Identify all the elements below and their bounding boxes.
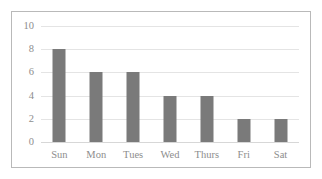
y-tick-label: 10 <box>24 21 35 32</box>
y-tick-label: 2 <box>29 114 34 125</box>
plot-area: 0246810 SunMonTuesWedThursFriSat <box>41 26 299 142</box>
x-tick-label: Sun <box>51 150 67 161</box>
x-tick-label: Tues <box>123 150 143 161</box>
gridline-0 <box>41 142 299 143</box>
bar <box>163 96 176 142</box>
bar <box>274 119 287 142</box>
y-tick-label: 0 <box>29 137 34 148</box>
y-tick-label: 4 <box>29 90 34 101</box>
x-tick-label: Fri <box>238 150 250 161</box>
bar-group: Wed <box>152 26 189 142</box>
x-tick-label: Mon <box>86 150 106 161</box>
y-tick-label: 8 <box>29 44 34 55</box>
bar <box>237 119 250 142</box>
bar-group: Sat <box>262 26 299 142</box>
x-tick-label: Wed <box>160 150 179 161</box>
bar <box>90 72 103 142</box>
bar-group: Tues <box>115 26 152 142</box>
x-tick-label: Thurs <box>195 150 220 161</box>
y-tick-label: 6 <box>29 67 34 78</box>
bar-group: Mon <box>78 26 115 142</box>
x-tick-label: Sat <box>274 150 287 161</box>
bars: SunMonTuesWedThursFriSat <box>41 26 299 142</box>
bar <box>200 96 213 142</box>
bar-chart-figure: 0246810 SunMonTuesWedThursFriSat <box>11 11 311 168</box>
bar-group: Thurs <box>188 26 225 142</box>
bar <box>53 49 66 142</box>
bar <box>127 72 140 142</box>
bar-group: Sun <box>41 26 78 142</box>
bar-group: Fri <box>225 26 262 142</box>
